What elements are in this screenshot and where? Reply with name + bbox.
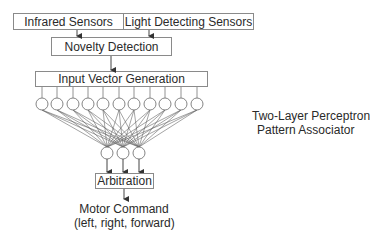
input-node <box>82 98 94 110</box>
input-node <box>159 98 171 110</box>
perceptron-label-line1: Two-Layer Perceptron <box>252 109 370 123</box>
input-node <box>67 98 79 110</box>
input-node <box>175 98 187 110</box>
perceptron-label-line2: Pattern Associator <box>252 123 370 137</box>
motor-command-line2: (left, right, forward) <box>74 216 174 230</box>
input-layer-nodes <box>36 98 203 110</box>
input-node <box>36 98 48 110</box>
motor-command-line1: Motor Command <box>74 202 174 216</box>
output-node <box>133 147 145 159</box>
arbitration-label: Arbitration <box>97 174 152 188</box>
output-node <box>101 147 113 159</box>
input-feed-lines <box>42 87 197 98</box>
input-node <box>51 98 63 110</box>
input-node <box>144 98 156 110</box>
motor-command: Motor Command (left, right, forward) <box>74 202 174 230</box>
perceptron-label: Two-Layer Perceptron Pattern Associator <box>252 109 370 137</box>
input-node <box>113 98 125 110</box>
input-node <box>97 98 109 110</box>
output-layer-nodes <box>101 147 145 159</box>
output-arrows <box>107 159 139 172</box>
weight-connections <box>42 110 197 147</box>
input-node <box>128 98 140 110</box>
arbitration-box: Arbitration <box>95 173 154 189</box>
output-node <box>117 147 129 159</box>
sensor-arrows <box>77 30 149 36</box>
input-node <box>191 98 203 110</box>
